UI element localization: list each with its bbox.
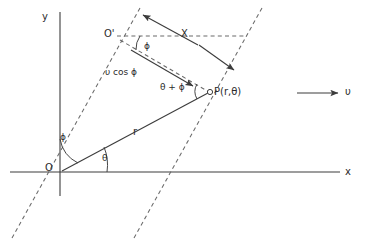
v-cos-phi-label: υ cos ϕ bbox=[105, 68, 137, 77]
origin-prime-label: O' bbox=[104, 29, 115, 39]
axes-group bbox=[10, 12, 340, 196]
phi-label-at-origin: ϕ bbox=[60, 133, 66, 142]
point-marker-p bbox=[207, 89, 212, 94]
point-markers-group bbox=[207, 89, 212, 94]
phi-arc-at-o-prime bbox=[136, 36, 140, 50]
v-cos-phi-arrow bbox=[131, 50, 193, 86]
velocity-arrow-down-right bbox=[199, 45, 234, 70]
y-axis-label: y bbox=[42, 12, 48, 22]
point-x-label: X bbox=[181, 29, 188, 39]
origin-label: O bbox=[45, 163, 53, 173]
theta-plus-phi-label: θ + ϕ bbox=[160, 83, 185, 92]
x-axis-label: x bbox=[345, 167, 351, 177]
phi-arc-at-origin bbox=[60, 139, 78, 163]
parallel-dashed-line-right bbox=[134, 8, 262, 238]
velocity-label: υ bbox=[345, 87, 351, 97]
angle-arcs-group bbox=[60, 36, 197, 172]
theta-label-at-origin: θ bbox=[102, 154, 108, 163]
parallel-dashed-line-left bbox=[12, 8, 140, 238]
theta-plus-phi-arc-at-p bbox=[195, 84, 197, 99]
velocity-arrow-up-left bbox=[143, 15, 198, 45]
phi-label-at-o-prime: ϕ bbox=[144, 42, 150, 51]
geometry-diagram-figure: y x O O' X P(r,θ) r ϕ θ ϕ θ + ϕ υ cos ϕ … bbox=[0, 0, 366, 242]
point-p-label: P(r,θ) bbox=[214, 87, 241, 97]
radius-label: r bbox=[133, 127, 137, 137]
